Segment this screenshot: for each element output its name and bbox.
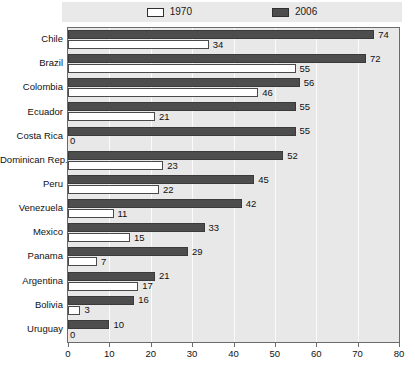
bar-row-2006: 56 xyxy=(68,78,314,87)
bar-value-label: 0 xyxy=(70,136,75,146)
bar-row-1970: 11 xyxy=(68,209,127,218)
bar-group: 297 xyxy=(68,245,399,269)
bar-value-label: 46 xyxy=(262,88,273,98)
bar-value-label: 3 xyxy=(84,305,89,315)
bar-2006 xyxy=(68,175,254,184)
bar-1970 xyxy=(68,282,138,291)
filled-square-swatch-icon xyxy=(272,8,289,17)
bar-1970 xyxy=(68,40,209,49)
bar-row-1970: 0 xyxy=(68,330,75,339)
bar-value-label: 55 xyxy=(300,64,311,74)
bar-group: 5223 xyxy=(68,149,399,173)
x-axis-tick xyxy=(399,343,400,347)
bar-value-label: 21 xyxy=(159,271,170,281)
bar-row-1970: 46 xyxy=(68,88,273,97)
bar-1970 xyxy=(68,233,130,242)
x-axis-tick xyxy=(358,343,359,347)
bar-2006 xyxy=(68,54,366,63)
x-axis-tick-label: 30 xyxy=(187,349,198,359)
bar-value-label: 55 xyxy=(300,102,311,112)
bar-2006 xyxy=(68,102,296,111)
bar-value-label: 42 xyxy=(246,199,257,209)
bar-2006 xyxy=(68,127,296,136)
legend-label-1970: 1970 xyxy=(170,7,192,17)
x-axis-tick xyxy=(234,343,235,347)
bar-value-label: 23 xyxy=(167,161,178,171)
x-axis-tick-label: 80 xyxy=(394,349,405,359)
bar-row-1970: 15 xyxy=(68,233,145,242)
category-label-bolivia: Bolivia xyxy=(0,300,63,310)
bar-value-label: 17 xyxy=(142,281,153,291)
bar-row-2006: 55 xyxy=(68,127,310,136)
bar-value-label: 16 xyxy=(138,295,149,305)
open-square-swatch-icon xyxy=(147,8,164,17)
bar-row-2006: 10 xyxy=(68,320,124,329)
x-axis-tick-label: 10 xyxy=(104,349,115,359)
bar-row-1970: 17 xyxy=(68,282,153,291)
bar-2006 xyxy=(68,247,188,256)
bar-value-label: 33 xyxy=(209,223,220,233)
x-axis-tick-label: 70 xyxy=(352,349,363,359)
bar-1970 xyxy=(68,88,258,97)
category-label-panama: Panama xyxy=(0,251,63,261)
x-axis-tick-label: 20 xyxy=(145,349,156,359)
category-label-uruguay: Uruguay xyxy=(0,324,63,334)
legend-entry-2006: 2006 xyxy=(272,7,317,17)
gridline xyxy=(399,28,400,342)
bar-group: 2117 xyxy=(68,270,399,294)
category-label-brazil: Brazil xyxy=(0,58,63,68)
bar-2006 xyxy=(68,30,374,39)
chart-legend: 1970 2006 xyxy=(62,2,402,22)
category-label-dominican-rep: Dominican Rep. xyxy=(0,155,63,165)
bar-row-1970: 22 xyxy=(68,185,174,194)
category-label-mexico: Mexico xyxy=(0,227,63,237)
x-axis-tick xyxy=(275,343,276,347)
category-label-venezuela: Venezuela xyxy=(0,203,63,213)
legend-label-2006: 2006 xyxy=(295,7,317,17)
bar-group: 550 xyxy=(68,125,399,149)
bar-chart: 1970 2006 ChileBrazilColombiaEcuadorCost… xyxy=(0,0,415,369)
bar-row-2006: 72 xyxy=(68,54,380,63)
bar-rows: 7434725556465521550522345224211331529721… xyxy=(68,28,399,342)
bar-1970 xyxy=(68,257,97,266)
bar-group: 4522 xyxy=(68,173,399,197)
bar-value-label: 15 xyxy=(134,233,145,243)
bar-value-label: 55 xyxy=(300,126,311,136)
bar-value-label: 52 xyxy=(287,151,298,161)
bar-row-2006: 29 xyxy=(68,247,203,256)
bar-group: 163 xyxy=(68,294,399,318)
bar-row-1970: 55 xyxy=(68,64,310,73)
bar-row-1970: 0 xyxy=(68,137,75,146)
bar-row-2006: 55 xyxy=(68,102,310,111)
bar-row-2006: 52 xyxy=(68,151,298,160)
category-label-argentina: Argentina xyxy=(0,276,63,286)
bar-value-label: 45 xyxy=(258,175,269,185)
bar-group: 7255 xyxy=(68,52,399,76)
bar-1970 xyxy=(68,185,159,194)
bar-2006 xyxy=(68,296,134,305)
bar-group: 4211 xyxy=(68,197,399,221)
bar-value-label: 74 xyxy=(378,30,389,40)
bar-1970 xyxy=(68,306,80,315)
bar-group: 7434 xyxy=(68,28,399,52)
bar-row-1970: 7 xyxy=(68,257,106,266)
x-axis-tick xyxy=(68,343,69,347)
bar-row-2006: 33 xyxy=(68,223,219,232)
x-axis-tick-label: 0 xyxy=(65,349,70,359)
x-axis-tick xyxy=(109,343,110,347)
bar-1970 xyxy=(68,209,114,218)
bar-group: 3315 xyxy=(68,221,399,245)
bar-2006 xyxy=(68,199,242,208)
bar-1970 xyxy=(68,64,296,73)
bar-value-label: 29 xyxy=(192,247,203,257)
legend-entry-1970: 1970 xyxy=(147,7,192,17)
bar-row-1970: 3 xyxy=(68,306,90,315)
bar-value-label: 0 xyxy=(70,330,75,340)
category-label-colombia: Colombia xyxy=(0,82,63,92)
bar-1970 xyxy=(68,161,163,170)
bar-row-2006: 16 xyxy=(68,296,149,305)
bar-2006 xyxy=(68,151,283,160)
bar-value-label: 72 xyxy=(370,54,381,64)
x-axis-tick-label: 40 xyxy=(228,349,239,359)
bar-value-label: 21 xyxy=(159,112,170,122)
